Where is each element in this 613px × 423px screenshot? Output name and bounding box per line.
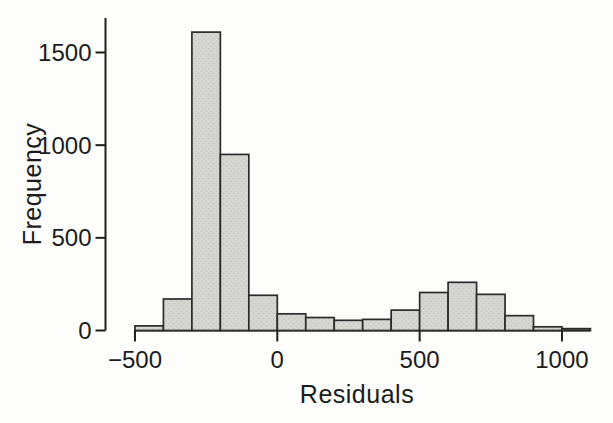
y-tick-label: 0 <box>78 317 91 344</box>
histogram-bar <box>420 293 448 331</box>
histogram-bar <box>135 326 163 331</box>
histogram-bar <box>334 320 362 330</box>
histogram-figure: 050010001500−50005001000 Frequency Resid… <box>0 0 613 423</box>
y-tick-label: 1500 <box>38 39 91 66</box>
histogram-bar <box>249 295 277 330</box>
histogram-bar <box>220 154 248 330</box>
histogram-bar <box>448 282 476 330</box>
histogram-bar <box>562 329 590 331</box>
x-tick-label: 500 <box>400 346 440 373</box>
histogram-bar <box>391 310 419 330</box>
histogram-bar <box>163 299 191 331</box>
x-axis-title: Residuals <box>300 380 414 409</box>
histogram-bar <box>277 314 305 331</box>
x-tick-label: 1000 <box>535 346 588 373</box>
histogram-bar <box>363 319 391 330</box>
histogram-bar <box>306 318 334 331</box>
histogram-bar <box>505 316 533 331</box>
histogram-bar <box>534 327 562 331</box>
x-tick-label: 0 <box>271 346 284 373</box>
x-tick-label: −500 <box>108 346 162 373</box>
y-axis-title: Frequency <box>18 123 47 246</box>
histogram-bar <box>192 32 220 330</box>
y-tick-label: 500 <box>51 224 91 251</box>
residuals-histogram-plot: 050010001500−50005001000 <box>0 0 613 423</box>
histogram-bar <box>477 294 505 330</box>
